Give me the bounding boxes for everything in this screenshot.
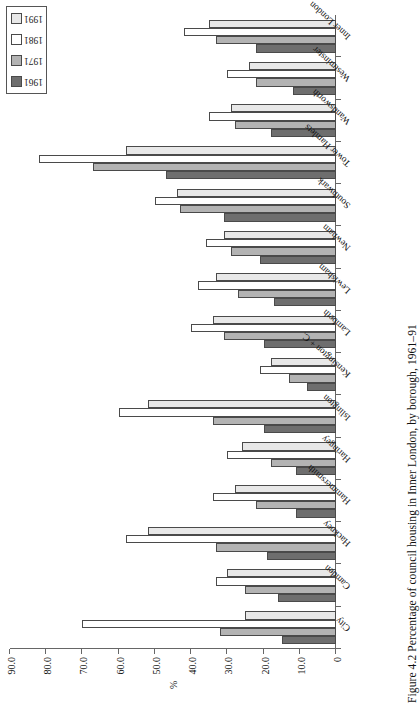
legend-swatch [11,55,22,66]
bar [166,171,336,179]
bar [231,104,336,112]
value-tick [226,649,227,654]
value-tick [263,649,264,654]
bar [206,239,336,247]
legend-label: 1981 [24,35,43,45]
bar [220,628,336,636]
bar [274,298,336,306]
value-tick [190,649,191,654]
value-tick [154,649,155,654]
value-tick-label: 40.0 [187,657,198,695]
category-tick [336,56,341,57]
value-tick-label: 20.0 [260,657,271,695]
value-tick [9,649,10,654]
figure-caption: Figure 4.2 Percentage of council housing… [406,324,418,703]
legend-item: 1981 [11,34,43,45]
legend-label: 1961 [24,77,43,87]
value-tick [118,649,119,654]
bar [216,273,336,281]
bar [224,213,336,221]
bar [93,163,336,171]
value-axis-title: % [168,681,179,689]
bar [216,543,336,551]
bar [264,425,336,433]
category-tick [336,648,341,649]
legend-swatch [11,76,22,87]
chart-plot-area: 010.020.030.040.050.060.070.080.090.0 Ci… [10,15,382,649]
bar [155,197,336,205]
category-label: City [333,615,352,633]
bar [126,535,336,543]
bar [282,636,336,644]
legend-label: 1991 [24,14,43,24]
value-tick [45,649,46,654]
value-tick-label: 90.0 [6,657,17,695]
chart-legend: 1961197119811991 [6,6,47,94]
bar [307,383,336,391]
bar [209,112,336,120]
bar [235,121,336,129]
bar [191,324,336,332]
bar [148,527,336,535]
category-tick [336,141,341,142]
bar [213,417,336,425]
bar [198,282,336,290]
bar [180,205,336,213]
value-tick-label: 50.0 [151,657,162,695]
value-tick-label: 10.0 [296,657,307,695]
category-tick [336,437,341,438]
legend-item: 1991 [11,13,43,24]
bar [256,78,336,86]
category-tick [336,183,341,184]
legend-label: 1971 [24,56,43,66]
bar [296,509,336,517]
category-tick [336,310,341,311]
value-tick [335,649,336,654]
value-tick [299,649,300,654]
legend-swatch [11,34,22,45]
category-tick [336,394,341,395]
value-tick-label: 30.0 [223,657,234,695]
bar [119,408,336,416]
value-tick-label: 0 [332,657,343,695]
bar [213,316,336,324]
bar [245,611,336,619]
bar [271,459,336,467]
category-tick [336,268,341,269]
category-tick [336,479,341,480]
category-tick [336,521,341,522]
category-tick [336,225,341,226]
category-tick [336,352,341,353]
bar [224,231,336,239]
bar [216,36,336,44]
bar [278,594,336,602]
bar [216,577,336,585]
bar [184,28,336,36]
bar [227,569,336,577]
bar [224,332,336,340]
bar [289,374,336,382]
value-tick-label: 80.0 [42,657,53,695]
bar [227,451,336,459]
bar [227,70,336,78]
figure-root: 010.020.030.040.050.060.070.080.090.0 Ci… [0,0,420,711]
bar [126,146,336,154]
bar [209,20,336,28]
bar [235,485,336,493]
bar [245,586,336,594]
value-tick-label: 70.0 [78,657,89,695]
bar [213,493,336,501]
bar [148,400,336,408]
legend-item: 1971 [11,55,43,66]
bar [82,620,336,628]
bar [39,155,336,163]
bar [231,247,336,255]
legend-swatch [11,13,22,24]
category-tick [336,563,341,564]
bar [256,501,336,509]
bar [238,290,336,298]
category-tick [336,99,341,100]
bar [260,366,336,374]
bar [177,189,336,197]
value-tick [81,649,82,654]
